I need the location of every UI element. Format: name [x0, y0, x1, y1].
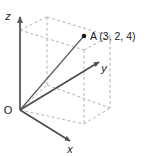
- box-bottom-edge-front: [84, 108, 110, 124]
- box-top-edge-back-left: [20, 17, 47, 30]
- point-a-label: A (3, 2, 4): [90, 30, 136, 42]
- y-axis-label: y: [100, 62, 108, 74]
- position-vector-oa: [20, 37, 83, 110]
- box-bottom-edge-left: [20, 85, 47, 110]
- box-bottom-edge-near: [20, 110, 84, 124]
- coordinate-diagram: z y x O A (3, 2, 4): [0, 0, 145, 156]
- coordinate-diagram-svg: z y x O A (3, 2, 4): [0, 0, 145, 156]
- origin-label: O: [4, 104, 13, 116]
- y-axis-line: [20, 62, 99, 110]
- point-a-marker: [82, 34, 87, 39]
- x-axis-line: [20, 110, 70, 141]
- z-axis-label: z: [4, 10, 11, 22]
- x-axis-label: x: [66, 143, 73, 155]
